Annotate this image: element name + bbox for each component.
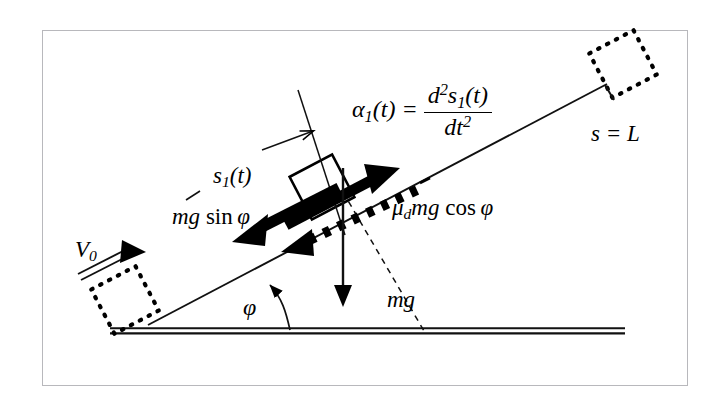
end-position-label: s = L <box>591 122 640 145</box>
pointer-arrow <box>262 131 313 150</box>
acceleration-equation-label: α1(t) = d2s1(t) dt2 <box>352 82 492 139</box>
initial-velocity-label: V0 <box>75 238 97 264</box>
weight-label: mg <box>387 288 415 311</box>
block-end-tick <box>605 85 614 100</box>
physics-diagram-canvas <box>0 0 715 415</box>
displacement-tick <box>186 191 200 200</box>
displacement-label: s1(t) <box>213 164 251 190</box>
friction-force-label: μdmg cos φ <box>392 196 493 222</box>
angle-arc <box>270 285 290 330</box>
figure-root: α1(t) = d2s1(t) dt2 s1(t) mg sin φ μdmg … <box>0 0 715 415</box>
second-derivative-fraction: d2s1(t) dt2 <box>424 82 492 139</box>
ground-line <box>110 328 625 333</box>
incline-angle-label: φ <box>243 295 256 319</box>
gravity-component-label: mg sin φ <box>172 205 250 228</box>
